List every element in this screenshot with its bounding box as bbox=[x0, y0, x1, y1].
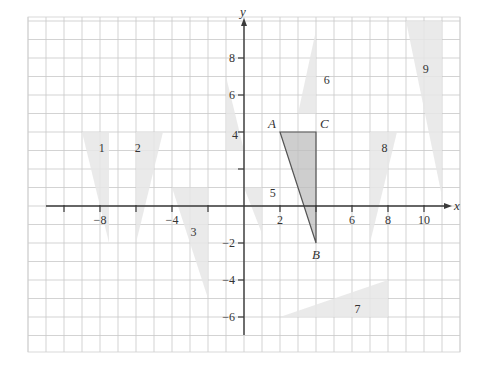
image-triangle-5 bbox=[244, 188, 262, 234]
x-tick-label: −4 bbox=[166, 213, 179, 227]
y-tick-label: −4 bbox=[222, 273, 235, 287]
x-tick-label: 2 bbox=[277, 213, 283, 227]
shape-label-5: 5 bbox=[270, 186, 276, 200]
shape-label-1: 1 bbox=[99, 141, 105, 155]
x-tick-label: 10 bbox=[418, 213, 430, 227]
x-axis-label: x bbox=[453, 198, 460, 213]
coordinate-plane: −8−42681086−2−4−6xy123456789ACB bbox=[0, 0, 486, 374]
y-axis-arrow-icon bbox=[241, 18, 247, 26]
coordinate-grid-figure: −8−42681086−2−4−6xy123456789ACB bbox=[0, 0, 486, 374]
shape-label-9: 9 bbox=[423, 62, 429, 76]
y-tick-label: 6 bbox=[229, 88, 235, 102]
shape-label-8: 8 bbox=[381, 141, 387, 155]
shape-label-7: 7 bbox=[354, 302, 360, 316]
x-tick-label: 8 bbox=[385, 213, 391, 227]
shape-label-3: 3 bbox=[191, 225, 197, 239]
x-tick-label: −8 bbox=[94, 213, 107, 227]
vertex-label-b: B bbox=[312, 247, 320, 262]
shape-label-2: 2 bbox=[135, 141, 141, 155]
y-axis-label: y bbox=[238, 4, 246, 19]
x-tick-label: 6 bbox=[349, 213, 355, 227]
y-tick-label: −2 bbox=[222, 236, 235, 250]
vertex-label-c: C bbox=[320, 116, 329, 131]
y-tick-label: −6 bbox=[222, 310, 235, 324]
y-tick-label: 8 bbox=[229, 51, 235, 65]
x-axis-arrow-icon bbox=[444, 203, 452, 209]
vertex-label-a: A bbox=[267, 116, 276, 131]
shape-label-4: 4 bbox=[232, 128, 238, 142]
shape-label-6: 6 bbox=[324, 73, 330, 87]
image-triangle-6 bbox=[298, 30, 316, 113]
